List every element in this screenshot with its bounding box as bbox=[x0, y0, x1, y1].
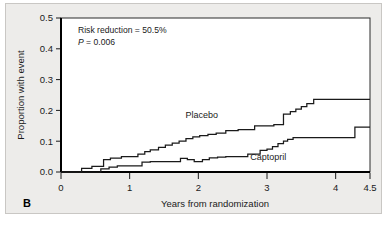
y-tick-label: 0.5 bbox=[40, 12, 53, 23]
annotation-p-value: P = 0.006 bbox=[78, 37, 115, 47]
y-tick-label: 0.2 bbox=[40, 105, 53, 116]
p-value-text: = 0.006 bbox=[84, 37, 116, 47]
y-tick-label: 0.1 bbox=[40, 136, 53, 147]
y-axis-tick-labels: 0.00.10.20.30.40.5 bbox=[40, 12, 53, 177]
x-axis-ticks bbox=[61, 173, 370, 179]
x-tick-label: 0 bbox=[58, 182, 63, 193]
annotation-risk-reduction: Risk reduction = 50.5% bbox=[78, 25, 167, 35]
y-axis-title: Proportion with event bbox=[15, 50, 26, 140]
x-axis-tick-labels: 012344.5 bbox=[58, 182, 376, 193]
x-tick-label: 4.5 bbox=[363, 182, 376, 193]
x-tick-label: 4 bbox=[333, 182, 338, 193]
y-tick-label: 0.3 bbox=[40, 74, 53, 85]
panel-label: B bbox=[23, 197, 31, 209]
x-tick-label: 3 bbox=[264, 182, 269, 193]
x-axis-title: Years from randomization bbox=[161, 198, 269, 209]
x-tick-label: 2 bbox=[196, 182, 201, 193]
series-label-captopril: Captopril bbox=[250, 152, 286, 162]
y-tick-label: 0.0 bbox=[40, 166, 53, 177]
y-tick-label: 0.4 bbox=[40, 43, 53, 54]
kaplan-meier-chart: 0.00.10.20.30.40.5 012344.5 Placebo Capt… bbox=[0, 0, 389, 225]
x-tick-label: 1 bbox=[127, 182, 132, 193]
series-label-placebo: Placebo bbox=[186, 110, 219, 120]
